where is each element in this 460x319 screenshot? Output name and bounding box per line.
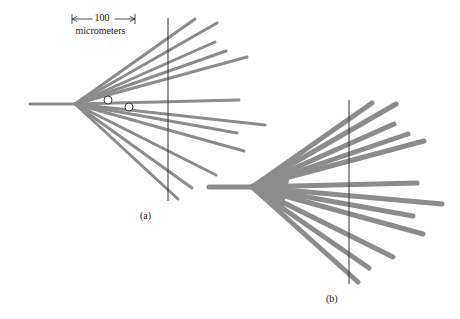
panel-b-label: (b) — [326, 293, 338, 304]
branch — [75, 104, 216, 175]
branch — [75, 51, 226, 104]
panel-a-label: (a) — [140, 210, 151, 221]
marker-circle — [125, 103, 133, 111]
branch — [75, 57, 247, 104]
branch — [75, 104, 192, 188]
scale-bar-value: 100 — [95, 12, 110, 23]
branch — [75, 100, 239, 104]
marker-circle — [104, 96, 112, 104]
panel-a-dendrite — [30, 18, 265, 201]
panel-b-dendrite — [209, 100, 442, 284]
dendrite-diagram — [0, 0, 460, 319]
scale-bar-unit: micrometers — [76, 25, 126, 36]
